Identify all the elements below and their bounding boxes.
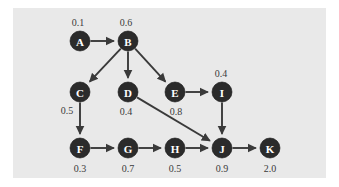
node-label-b: B	[124, 36, 132, 48]
node-label-a: A	[76, 36, 84, 48]
node-label-k: K	[266, 143, 275, 155]
node-label-c: C	[76, 87, 84, 99]
node-weight-h: 0.5	[169, 163, 182, 174]
figure-canvas: ABCDEIFGHJK 0.10.60.50.40.80.40.30.70.50…	[0, 0, 339, 187]
node-weight-e: 0.8	[170, 106, 183, 117]
node-k[interactable]: K	[260, 138, 280, 158]
node-label-f: F	[77, 143, 84, 155]
node-j[interactable]: J	[212, 138, 232, 158]
node-weight-j: 0.9	[216, 163, 229, 174]
node-g[interactable]: G	[118, 138, 138, 158]
node-a[interactable]: A	[70, 31, 90, 51]
node-weight-d: 0.4	[120, 106, 133, 117]
nodes-layer: ABCDEIFGHJK	[70, 31, 280, 158]
node-f[interactable]: F	[70, 138, 90, 158]
node-label-i: I	[220, 87, 224, 99]
node-weight-i: 0.4	[215, 68, 228, 79]
node-label-e: E	[171, 87, 178, 99]
node-weight-g: 0.7	[122, 163, 135, 174]
node-label-g: G	[124, 143, 133, 155]
node-label-j: J	[219, 143, 225, 155]
edge-b-to-e	[135, 49, 165, 82]
node-e[interactable]: E	[165, 82, 185, 102]
node-weight-c: 0.5	[61, 105, 74, 116]
node-weight-b: 0.6	[120, 17, 133, 28]
node-d[interactable]: D	[118, 82, 138, 102]
node-i[interactable]: I	[212, 82, 232, 102]
node-label-d: D	[124, 87, 132, 99]
node-weight-f: 0.3	[74, 163, 87, 174]
node-b[interactable]: B	[118, 31, 138, 51]
edge-d-to-j	[137, 97, 210, 140]
node-label-h: H	[171, 143, 180, 155]
node-weight-k: 2.0	[264, 163, 277, 174]
edge-b-to-c	[90, 49, 121, 82]
node-h[interactable]: H	[165, 138, 185, 158]
node-weight-a: 0.1	[72, 17, 85, 28]
directed-graph: ABCDEIFGHJK 0.10.60.50.40.80.40.30.70.50…	[0, 0, 339, 187]
node-c[interactable]: C	[70, 82, 90, 102]
